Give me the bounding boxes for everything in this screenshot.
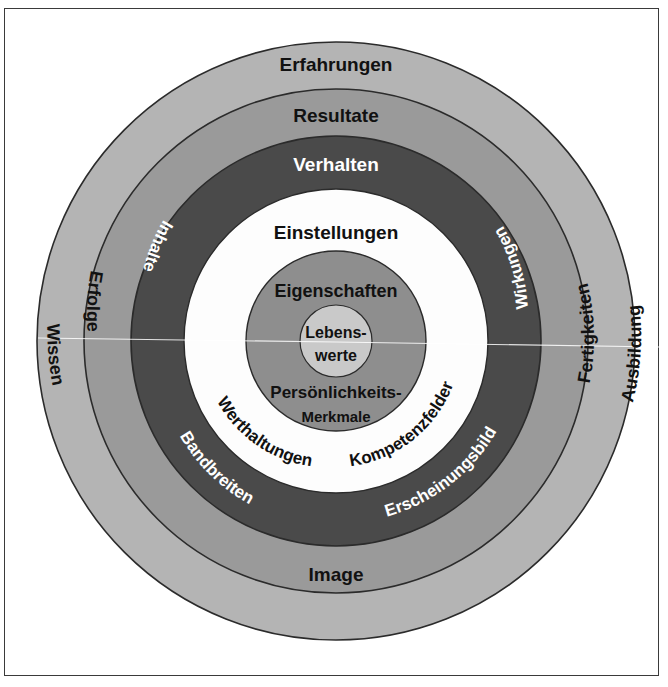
- rings-svg: Erfahrungen Wissen Ausbildung Resultate …: [0, 0, 668, 687]
- label-resultate: Resultate: [293, 105, 379, 126]
- concentric-rings-diagram: Erfahrungen Wissen Ausbildung Resultate …: [0, 0, 668, 687]
- label-erfahrungen: Erfahrungen: [280, 54, 393, 75]
- label-verhalten: Verhalten: [293, 154, 379, 175]
- label-eigenschaften: Eigenschaften: [274, 281, 397, 301]
- label-einstellungen: Einstellungen: [274, 222, 399, 243]
- label-persoenlichkeits: Persönlichkeits-: [270, 383, 401, 402]
- label-image: Image: [309, 564, 364, 585]
- figure-page: Erfahrungen Wissen Ausbildung Resultate …: [0, 0, 668, 687]
- label-merkmale: Merkmale: [301, 408, 370, 425]
- label-werte: werte: [314, 347, 357, 364]
- label-lebens: Lebens-: [305, 324, 366, 341]
